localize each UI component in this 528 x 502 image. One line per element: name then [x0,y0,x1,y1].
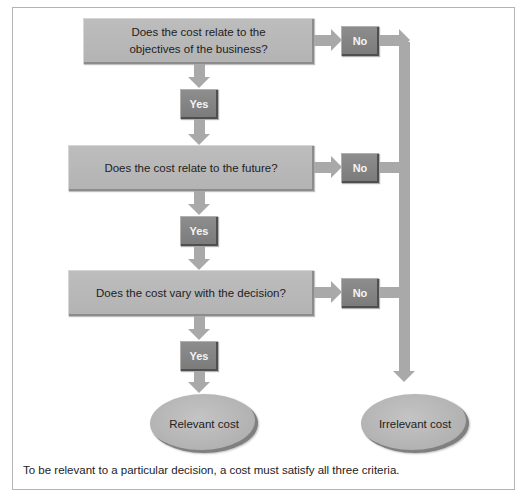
yes-tag-1: Yes [180,89,218,119]
irrelevant-collector-bar [399,42,410,371]
arrow-down-icon [188,329,210,340]
arrow-down-icon [188,204,210,215]
arrow-no3-bar-shaft [379,287,399,298]
yes-tag-3: Yes [180,341,218,371]
arrow-down-icon [188,77,210,88]
arrow-down-icon [393,371,415,382]
arrow-q2-yes-shaft [194,191,205,204]
question-box-3: Does the cost vary with the decision? [68,270,314,316]
figure-caption: To be relevant to a particular decision,… [23,464,399,476]
no-tag-3: No [341,278,379,308]
arrow-yes1-q2-shaft [194,119,205,134]
arrow-q3-no-shaft [314,287,331,298]
relevant-cost-label: Relevant cost [169,418,239,430]
question-3-text: Does the cost vary with the decision? [96,285,286,302]
question-2-text: Does the cost relate to the future? [104,160,277,177]
arrow-down-icon [188,259,210,270]
no-tag-2: No [341,153,379,183]
irrelevant-cost-terminal: Irrelevant cost [361,394,469,453]
irrelevant-cost-label: Irrelevant cost [379,418,451,430]
arrow-yes3-relevant-shaft [194,371,205,382]
question-1-line-1: Does the cost relate to the [131,24,265,41]
arrow-down-icon [188,382,210,393]
no-tag-1: No [341,26,379,56]
question-box-1: Does the cost relate to the objectives o… [83,18,314,64]
arrow-q1-no-shaft [314,35,331,46]
arrow-down-icon [188,134,210,145]
arrow-yes2-q3-shaft [194,246,205,259]
question-box-2: Does the cost relate to the future? [68,145,314,191]
arrow-q3-yes-shaft [194,316,205,329]
arrow-no2-bar-shaft [379,162,399,173]
arrow-q2-no-shaft [314,162,331,173]
yes-tag-2: Yes [180,216,218,246]
arrow-no1-bar-shaft [379,35,399,46]
question-1-line-2: objectives of the business? [129,41,267,58]
relevant-cost-terminal: Relevant cost [150,394,258,453]
arrow-q1-yes-shaft [194,64,205,77]
